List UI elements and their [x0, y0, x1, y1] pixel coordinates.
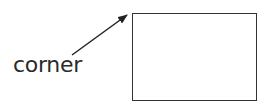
corner-label: corner: [13, 52, 82, 78]
diagram-canvas: corner: [0, 0, 272, 111]
rectangle-shape: [132, 13, 257, 101]
